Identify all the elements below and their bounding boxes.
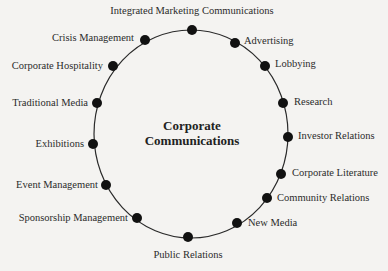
node-label-traditional-media: Traditional Media [12, 97, 88, 109]
node-label-corporate-hospitality: Corporate Hospitality [12, 60, 103, 72]
node-dot [108, 61, 118, 71]
node-dot [101, 180, 111, 190]
node-label-sponsorship-management: Sponsorship Management [19, 212, 128, 224]
node-dot [88, 139, 98, 149]
node-label-exhibitions: Exhibitions [36, 138, 84, 150]
node-dot [276, 169, 286, 179]
node-dot [92, 98, 102, 108]
node-dot [262, 193, 272, 203]
node-dot [183, 232, 193, 242]
node-dot [232, 218, 242, 228]
node-label-research: Research [294, 96, 332, 108]
node-dot [230, 38, 240, 48]
center-title: Corporate Communications [145, 118, 240, 148]
node-label-public-relations: Public Relations [153, 249, 222, 261]
node-dot [278, 98, 288, 108]
node-label-event-management: Event Management [16, 179, 98, 191]
node-label-investor-relations: Investor Relations [298, 130, 375, 142]
center-title-line1: Corporate [145, 118, 240, 133]
node-label-advertising: Advertising [244, 35, 294, 47]
node-dot [187, 25, 197, 35]
node-label-integrated-marketing-communications: Integrated Marketing Communications [110, 5, 273, 17]
node-dot [140, 35, 150, 45]
node-label-community-relations: Community Relations [277, 192, 369, 204]
node-label-lobbying: Lobbying [275, 58, 316, 70]
node-dot [260, 61, 270, 71]
node-label-crisis-management: Crisis Management [52, 32, 134, 44]
node-dot [132, 213, 142, 223]
node-dot [283, 132, 293, 142]
node-label-new-media: New Media [248, 217, 297, 229]
node-label-corporate-literature: Corporate Literature [292, 167, 378, 179]
center-title-line2: Communications [145, 133, 240, 148]
